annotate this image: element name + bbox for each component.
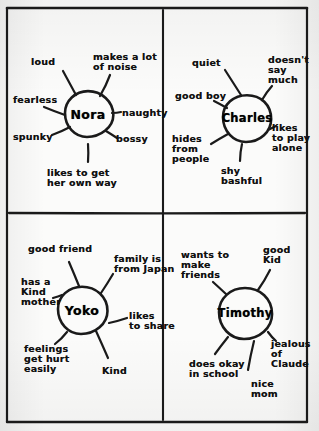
- trait-label-nora-3: naughty: [122, 108, 168, 118]
- worksheet-sheet: Noraloudmakes a lot of noisefearlessnaug…: [0, 0, 319, 431]
- character-name-timothy: Timothy: [218, 306, 273, 320]
- spoke-charles-5: [240, 144, 242, 161]
- spoke-yoko-5: [96, 331, 108, 358]
- trait-label-nora-4: spunky: [13, 132, 53, 142]
- trait-label-yoko-4: feelings get hurt easily: [24, 344, 69, 374]
- trait-label-timothy-3: does okay in school: [189, 359, 245, 379]
- trait-label-timothy-4: nice mom: [251, 379, 278, 399]
- trait-label-charles-1: doesn't say much: [268, 55, 309, 85]
- character-name-nora: Nora: [71, 107, 106, 122]
- spoke-charles-4: [211, 134, 228, 144]
- trait-label-charles-2: good boy: [175, 91, 226, 101]
- trait-label-nora-5: bossy: [116, 134, 148, 144]
- spoke-charles-1: [262, 86, 272, 100]
- spoke-yoko-0: [69, 262, 79, 286]
- trait-label-yoko-0: good friend: [28, 244, 92, 254]
- spoke-nora-0: [63, 71, 76, 95]
- trait-label-charles-5: shy bashful: [221, 166, 262, 186]
- trait-label-charles-4: hides from people: [172, 134, 209, 164]
- spoke-yoko-3: [109, 318, 127, 323]
- trait-label-nora-2: fearless: [13, 95, 57, 105]
- trait-label-yoko-1: family is from Japan: [114, 254, 174, 274]
- trait-label-nora-6: likes to get her own way: [47, 168, 117, 188]
- spoke-timothy-3: [215, 337, 228, 354]
- trait-label-yoko-3: likes to share: [129, 311, 175, 331]
- spoke-timothy-0: [213, 282, 226, 294]
- trait-label-nora-1: makes a lot of noise: [93, 52, 157, 72]
- spoke-charles-0: [225, 70, 241, 95]
- trait-label-nora-0: loud: [31, 57, 55, 67]
- trait-label-timothy-1: good Kid: [263, 245, 290, 265]
- trait-label-timothy-2: jealous of Claude: [271, 339, 311, 369]
- spoke-timothy-1: [258, 270, 270, 290]
- spoke-nora-1: [100, 75, 110, 96]
- trait-label-charles-3: likes to play alone: [272, 123, 310, 153]
- spoke-nora-4: [52, 127, 70, 135]
- spoke-nora-2: [44, 107, 65, 115]
- spoke-timothy-4: [248, 341, 254, 370]
- trait-label-yoko-2: has a Kind mother: [21, 277, 61, 307]
- character-name-charles: Charles: [222, 111, 273, 125]
- trait-label-timothy-0: wants to make friends: [181, 250, 229, 280]
- spoke-yoko-1: [101, 274, 113, 293]
- character-name-yoko: Yoko: [65, 303, 99, 318]
- trait-label-charles-0: quiet: [192, 58, 221, 68]
- trait-label-yoko-5: Kind: [102, 366, 127, 376]
